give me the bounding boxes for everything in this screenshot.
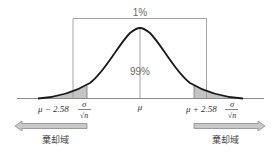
right-bound-numerator: σ: [230, 99, 235, 109]
center-percent-label: 99%: [130, 66, 150, 77]
left-rejection-label: 棄却域: [42, 134, 69, 145]
right-bound-denominator: √n: [228, 111, 236, 120]
left-bound-prefix: μ − 2.58: [37, 104, 69, 114]
right-bound-prefix: μ + 2.58: [185, 104, 217, 114]
top-percent-label: 1%: [133, 7, 148, 18]
right-bound-formula: μ + 2.58 σ √n: [185, 99, 238, 120]
right-rejection-label: 棄却域: [212, 134, 239, 145]
normal-distribution-diagram: 1% 99% μ μ − 2.58 σ √n μ + 2.58 σ √n 棄却域…: [0, 0, 280, 153]
mean-label: μ: [137, 102, 143, 112]
left-bound-formula: μ − 2.58 σ √n: [37, 99, 91, 120]
left-rejection-arrow-icon: [15, 121, 87, 131]
left-bound-numerator: σ: [82, 99, 87, 109]
bell-curve: [38, 28, 243, 99]
right-rejection-arrow-icon: [194, 121, 265, 131]
left-bound-denominator: √n: [80, 111, 88, 120]
